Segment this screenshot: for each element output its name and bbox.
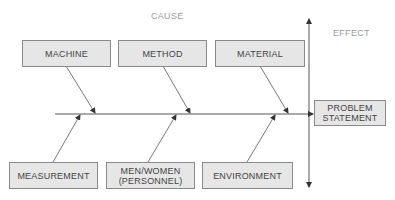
bone-environment — [247, 115, 275, 162]
cause-box-machine: MACHINE — [22, 40, 111, 67]
effect-label: EFFECT — [333, 28, 370, 38]
cause-box-environment: ENVIRONMENT — [202, 162, 293, 189]
cause-box-measurement: MEASUREMENT — [9, 162, 98, 189]
cause-box-personnel: MEN/WOMEN (PERSONNEL) — [106, 162, 195, 189]
bone-personnel — [148, 115, 176, 162]
bone-measurement — [53, 115, 80, 162]
cause-label: CAUSE — [151, 11, 184, 21]
bone-machine — [66, 66, 95, 113]
bone-material — [260, 66, 288, 113]
effect-box-problem-statement: PROBLEM STATEMENT — [314, 100, 386, 126]
cause-box-material: MATERIAL — [215, 40, 305, 67]
bone-method — [163, 66, 190, 113]
cause-box-method: METHOD — [118, 40, 207, 67]
